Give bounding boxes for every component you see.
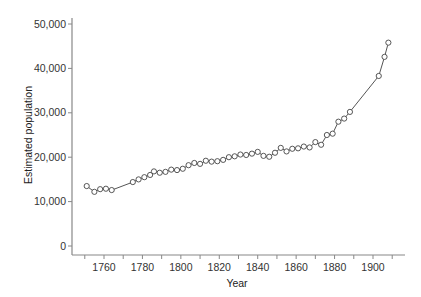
x-tick-label: 1800 — [169, 261, 193, 273]
x-tick-label: 1820 — [208, 261, 232, 273]
data-point-marker — [209, 159, 214, 164]
data-point-marker — [386, 40, 391, 45]
data-point-marker — [84, 183, 89, 188]
y-tick-label: 10,000 — [34, 195, 66, 207]
data-point-marker — [221, 157, 226, 162]
data-point-marker — [197, 161, 202, 166]
data-point-marker — [98, 187, 103, 192]
data-point-marker — [376, 73, 381, 78]
data-point-marker — [157, 170, 162, 175]
data-point-marker — [232, 154, 237, 159]
data-point-marker — [336, 119, 341, 124]
data-point-marker — [109, 187, 114, 192]
data-point-marker — [347, 109, 352, 114]
y-tick-label: 50,000 — [34, 18, 66, 30]
x-tick-label: 1880 — [323, 261, 347, 273]
data-point-marker — [92, 189, 97, 194]
data-point-marker — [319, 142, 324, 147]
data-point-marker — [103, 186, 108, 191]
data-point-marker — [203, 158, 208, 163]
data-point-marker — [272, 150, 277, 155]
population-series — [84, 40, 391, 194]
data-point-marker — [295, 146, 300, 151]
data-point-marker — [307, 145, 312, 150]
data-point-marker — [142, 175, 147, 180]
data-point-marker — [261, 153, 266, 158]
data-point-marker — [324, 132, 329, 137]
y-tick-label: 40,000 — [34, 62, 66, 74]
data-point-marker — [186, 163, 191, 168]
data-point-marker — [163, 169, 168, 174]
data-point-marker — [301, 144, 306, 149]
data-point-marker — [151, 169, 156, 174]
data-point-marker — [284, 149, 289, 154]
x-axis-label: Year — [226, 277, 248, 289]
data-point-marker — [313, 140, 318, 145]
y-tick-label: 0 — [60, 240, 66, 252]
data-point-marker — [330, 131, 335, 136]
x-tick-label: 1780 — [131, 261, 155, 273]
data-point-marker — [255, 149, 260, 154]
y-axis: 010,00020,00030,00040,00050,000 — [34, 18, 72, 256]
data-point-marker — [278, 145, 283, 150]
data-point-marker — [244, 152, 249, 157]
data-point-marker — [174, 167, 179, 172]
x-axis: 17601780180018201840186018801900 — [72, 255, 405, 273]
y-axis-label: Estimated population — [22, 86, 34, 184]
data-point-marker — [180, 166, 185, 171]
x-tick-label: 1860 — [284, 261, 308, 273]
data-point-marker — [136, 177, 141, 182]
data-point-marker — [238, 152, 243, 157]
data-point-marker — [267, 154, 272, 159]
data-point-marker — [169, 167, 174, 172]
population-line-chart: 010,00020,00030,00040,00050,000 17601780… — [0, 0, 421, 297]
y-tick-label: 20,000 — [34, 151, 66, 163]
data-point-marker — [226, 155, 231, 160]
data-point-marker — [215, 159, 220, 164]
data-point-marker — [249, 151, 254, 156]
data-point-marker — [342, 116, 347, 121]
x-tick-label: 1760 — [92, 261, 116, 273]
data-point-marker — [192, 160, 197, 165]
y-tick-label: 30,000 — [34, 106, 66, 118]
data-point-marker — [382, 54, 387, 59]
data-point-marker — [290, 146, 295, 151]
data-point-marker — [130, 179, 135, 184]
x-tick-label: 1900 — [361, 261, 385, 273]
x-tick-label: 1840 — [246, 261, 270, 273]
